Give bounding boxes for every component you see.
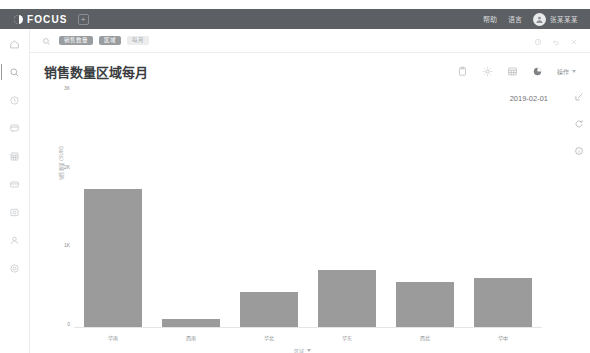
sidebar-item-image[interactable] [3, 204, 27, 220]
search-chips: 销售数量 区域 每月 [59, 36, 149, 46]
bar-chart: 销售数量 (SUM) 01K2K3K 华南西南华北华东西北华中 区域 [52, 88, 552, 328]
avatar [533, 13, 546, 26]
sidebar-item-settings[interactable] [3, 260, 27, 276]
user-name: 张某某某 [550, 14, 578, 24]
left-sidebar [0, 29, 30, 353]
x-axis-tick-label: 华北 [230, 334, 308, 341]
x-axis-line [74, 327, 542, 328]
page-title: 销售数量区域每月 [44, 62, 148, 81]
title-bar: 销售数量区域每月 操作 [30, 58, 590, 84]
actions-menu[interactable]: 操作 [557, 67, 576, 76]
x-axis-tick-label: 华南 [74, 334, 152, 341]
history-icon[interactable] [534, 32, 542, 50]
bar-column[interactable] [230, 88, 308, 327]
y-axis-tick: 1K [52, 242, 70, 248]
search-bar[interactable]: 销售数量 区域 每月 [30, 29, 590, 53]
table-icon[interactable] [507, 66, 518, 77]
bar-column[interactable] [464, 88, 542, 327]
sidebar-item-report[interactable] [3, 120, 27, 136]
x-axis-tick-label: 华东 [308, 334, 386, 341]
sidebar-item-table[interactable] [3, 148, 27, 164]
chevron-down-icon [307, 349, 311, 352]
bar-series [74, 88, 542, 327]
top-header: FOCUS + 帮助 语言 张某某某 [0, 9, 590, 29]
header-right-group: 帮助 语言 张某某某 [483, 13, 578, 26]
sidebar-item-search[interactable] [3, 64, 27, 80]
y-axis-tick: 0 [52, 321, 70, 327]
search-icon [42, 32, 51, 50]
clipboard-icon[interactable] [457, 66, 468, 77]
bar[interactable] [318, 270, 376, 327]
search-chip-measure[interactable]: 销售数量 [59, 36, 93, 46]
x-axis-labels: 华南西南华北华东西北华中 [74, 334, 542, 341]
chevron-down-icon [572, 70, 576, 73]
x-axis-tick-label: 西南 [152, 334, 230, 341]
bar-column[interactable] [152, 88, 230, 327]
header-link-language[interactable]: 语言 [508, 14, 522, 24]
add-new-button[interactable]: + [78, 14, 89, 25]
y-axis-tick: 3K [52, 85, 70, 91]
bar[interactable] [240, 292, 298, 327]
brand-logo[interactable]: FOCUS [14, 14, 68, 25]
title-toolbar: 操作 [457, 66, 576, 77]
bar-column[interactable] [74, 88, 152, 327]
chart-panel: 2019-02-01 销售数量 (SUM) 01K2K3K 华南西南华北华东西北… [30, 84, 590, 353]
actions-menu-label: 操作 [557, 67, 569, 76]
app-window: FOCUS + 帮助 语言 张某某某 [0, 0, 590, 353]
search-chip-dimension[interactable]: 区域 [99, 36, 121, 46]
sidebar-item-history[interactable] [3, 92, 27, 108]
y-axis-tick: 2K [52, 164, 70, 170]
user-menu[interactable]: 张某某某 [533, 13, 578, 26]
bar[interactable] [474, 278, 532, 327]
pie-chart-icon[interactable] [532, 66, 543, 77]
sidebar-item-user[interactable] [3, 232, 27, 248]
brand-name: FOCUS [27, 14, 68, 25]
x-axis-tick-label: 华中 [464, 334, 542, 341]
bar-column[interactable] [308, 88, 386, 327]
bar[interactable] [396, 282, 454, 327]
x-axis-title[interactable]: 区域 [52, 347, 552, 353]
clear-icon[interactable] [570, 32, 578, 50]
sidebar-item-card[interactable] [3, 176, 27, 192]
search-chip-time[interactable]: 每月 [127, 36, 149, 46]
undo-icon[interactable] [552, 32, 560, 50]
bar[interactable] [84, 189, 142, 327]
search-actions [534, 32, 578, 50]
header-link-help[interactable]: 帮助 [483, 14, 497, 24]
bar-column[interactable] [386, 88, 464, 327]
bar[interactable] [162, 319, 220, 327]
gear-icon[interactable] [482, 66, 493, 77]
focus-logo-icon [14, 15, 23, 24]
x-axis-title-label: 区域 [294, 347, 304, 353]
x-axis-tick-label: 西北 [386, 334, 464, 341]
sidebar-item-home[interactable] [3, 36, 27, 52]
